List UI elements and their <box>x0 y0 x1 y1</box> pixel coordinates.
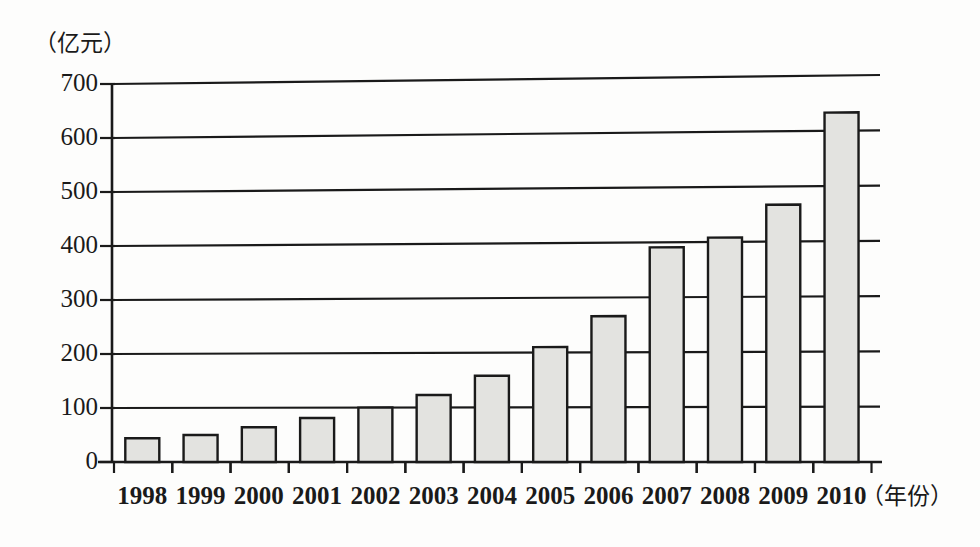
gridline <box>112 296 880 300</box>
gridline <box>112 241 880 246</box>
bar <box>358 408 392 462</box>
bar <box>242 427 276 462</box>
x-axis-unit-label: （年份） <box>861 481 953 511</box>
x-axis-tick-labels: 1998199920002001200220032004200520062007… <box>0 482 980 522</box>
bar <box>766 204 800 462</box>
gridline <box>112 75 880 84</box>
plot-area <box>110 78 870 462</box>
gridlines <box>112 75 880 408</box>
bar <box>417 395 451 462</box>
bar <box>125 438 159 462</box>
gridline <box>112 130 880 138</box>
bar <box>475 376 509 462</box>
bar <box>533 347 567 462</box>
bar <box>184 435 218 462</box>
gridline <box>112 186 880 192</box>
bar-chart: （亿元） 0100200300400500600700 199819992000… <box>0 0 980 547</box>
bar <box>825 112 859 462</box>
bar <box>708 237 742 462</box>
bar <box>300 418 334 462</box>
x-axis-ticks <box>114 462 872 473</box>
bar <box>591 316 625 462</box>
bars <box>125 112 858 462</box>
chart-canvas <box>0 0 980 547</box>
bar <box>650 247 684 462</box>
gridline <box>112 351 880 354</box>
